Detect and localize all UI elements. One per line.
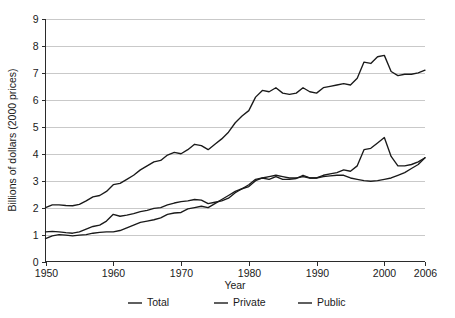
y-tick-label: 4 — [33, 148, 39, 160]
x-axis-ticks: 1950196019701980199020002006 — [35, 262, 438, 279]
series-line-public — [46, 158, 426, 239]
x-tick-label: 1990 — [306, 267, 330, 279]
y-tick-label: 5 — [33, 121, 39, 133]
line-chart: 0123456789 1950196019701980199020002006 … — [0, 0, 455, 318]
y-axis-ticks: 0123456789 — [33, 13, 46, 268]
x-tick-label: 1980 — [238, 267, 262, 279]
y-tick-label: 3 — [33, 175, 39, 187]
x-tick-label: 2006 — [414, 267, 438, 279]
chart-figure: 0123456789 1950196019701980199020002006 … — [0, 0, 455, 318]
y-tick-label: 2 — [33, 202, 39, 214]
gridlines — [46, 20, 426, 236]
y-tick-label: 8 — [33, 40, 39, 52]
axes — [46, 19, 426, 262]
legend-label-public: Public — [317, 296, 346, 308]
legend-label-total: Total — [147, 296, 169, 308]
x-tick-label: 2000 — [373, 267, 397, 279]
series-line-private — [46, 138, 426, 234]
x-tick-label: 1970 — [170, 267, 194, 279]
chart-legend: TotalPrivatePublic — [128, 296, 346, 308]
y-axis-label: Billions of dollars (2000 prices) — [6, 69, 18, 212]
y-tick-label: 1 — [33, 229, 39, 241]
x-axis-label: Year — [224, 279, 246, 291]
series-line-total — [46, 55, 426, 207]
y-tick-label: 6 — [33, 94, 39, 106]
x-tick-label: 1960 — [102, 267, 126, 279]
y-tick-label: 7 — [33, 67, 39, 79]
legend-label-private: Private — [233, 296, 266, 308]
series-lines — [46, 55, 426, 238]
x-tick-label: 1950 — [35, 267, 59, 279]
y-tick-label: 9 — [33, 13, 39, 25]
